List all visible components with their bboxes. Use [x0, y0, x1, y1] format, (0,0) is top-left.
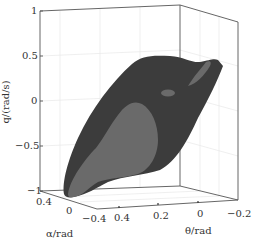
x-tick-label: 0.2 — [153, 211, 169, 221]
z-tick-label: 1 — [31, 6, 37, 16]
z-axis-title: q/(rad/s) — [1, 80, 11, 123]
x-tick-label: −0.2 — [227, 209, 251, 219]
z-tick-label: 0.5 — [22, 51, 38, 61]
inner-region-blob — [161, 90, 175, 97]
x-tick-label: 0 — [197, 209, 203, 219]
x-axis-title: θ/rad — [185, 226, 212, 236]
x-tick-label: 0.4 — [114, 213, 130, 223]
y-tick-label: 0 — [66, 206, 72, 216]
z-tick-label: −1 — [27, 186, 42, 196]
y-axis-title: α/rad — [46, 229, 73, 239]
z-tick-label: 0 — [31, 96, 37, 106]
y-tick-label: 0.4 — [36, 197, 52, 207]
z-tick-label: −0.5 — [15, 141, 39, 151]
y-tick-label: −0.4 — [82, 214, 106, 224]
